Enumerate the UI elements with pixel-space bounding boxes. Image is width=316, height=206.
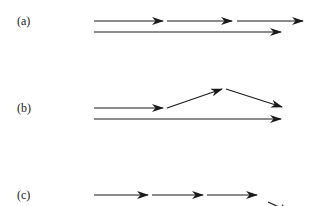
arrow [268,202,290,206]
arrow-diagram [0,0,316,206]
arrow [167,89,222,108]
arrow [226,89,282,107]
